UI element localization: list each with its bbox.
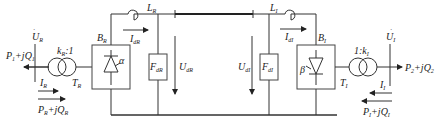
right-transformer-label: TI (340, 77, 349, 89)
left-bus-voltage-dot: · (33, 26, 35, 34)
left-dc-voltage-label: UdR (179, 61, 193, 73)
right-converter-label: BI (318, 32, 327, 44)
right-dc-current-label: IdI (284, 31, 294, 43)
right-reactor-icon (285, 10, 295, 20)
right-ac-power-label: P2+jQ2 (404, 62, 434, 74)
right-transformer-icon (349, 58, 377, 76)
left-dc-current-label: IdR (129, 33, 140, 45)
left-transformer-label: TR (72, 77, 82, 89)
right-current-label: II (379, 79, 386, 91)
firing-angle-label: α (119, 55, 125, 66)
right-power-in-label: PI+jQI (362, 106, 391, 118)
left-reactor-label: LR (146, 2, 157, 14)
right-bus-voltage-label: UI (386, 31, 396, 43)
right-dc-voltage-label: UdI (238, 61, 251, 73)
left-ac-power-label: P1+jQ1 (5, 50, 35, 62)
extinction-angle-label: β (299, 64, 305, 75)
right-transformer-ratio: 1:kI (354, 45, 370, 57)
right-reactor-label: LI (269, 2, 279, 14)
left-current-label: IR (39, 77, 47, 89)
hvdc-schematic: UR · P1+jQ1 IR PR+jQR kR:1 TR BR α L (0, 0, 437, 127)
left-converter-label: BR (97, 32, 107, 44)
left-reactor-icon (128, 10, 138, 20)
left-transformer-ratio: kR:1 (57, 45, 73, 57)
left-transformer-icon (48, 58, 76, 76)
left-power-in-label: PR+jQR (37, 104, 69, 116)
